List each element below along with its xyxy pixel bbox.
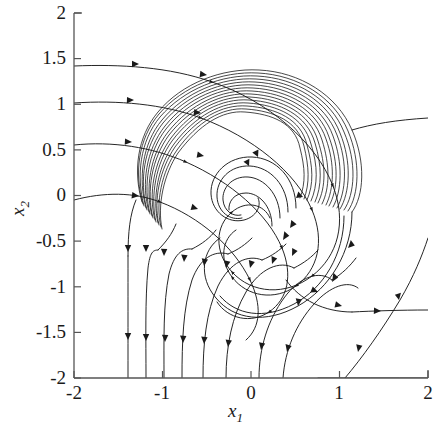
y-tick-label-1: 1 (18, 94, 66, 113)
arrowheads-outer-arms (296, 240, 355, 306)
traj-04 (74, 194, 258, 340)
traj-upper-right-out (352, 118, 428, 130)
x-tick-label-neg2: -2 (48, 383, 100, 402)
arrowheads-fan-lower (125, 333, 292, 352)
traj-02 (74, 102, 319, 295)
x-axis-title-subscript: 1 (236, 410, 243, 425)
x-tick-label-neg1: -1 (136, 383, 188, 402)
y-tick-label-2: 2 (18, 3, 66, 22)
y-tick-label-neg0p5: -0.5 (18, 231, 66, 250)
traj-07 (164, 249, 192, 378)
arrowheads-right (310, 287, 401, 353)
traj-12 (283, 285, 358, 378)
traj-13 (345, 238, 428, 378)
y-axis-title-subscript: 2 (17, 201, 32, 208)
y-axis-title-base: x (7, 208, 28, 216)
trajectory-group (74, 61, 428, 378)
y-tick-label-neg1: -1 (18, 277, 66, 296)
x-tick-label-2: 2 (402, 383, 443, 402)
y-axis-title: x2 (8, 201, 31, 216)
traj-08 (182, 253, 228, 378)
x-axis-ticks (74, 371, 428, 378)
y-tick-label-0p5: 0.5 (18, 140, 66, 159)
inner-spiral (211, 157, 296, 226)
x-axis-title: x1 (228, 401, 243, 424)
plot-canvas (0, 0, 443, 426)
axes (74, 13, 428, 378)
y-axis-ticks (74, 13, 81, 378)
phase-portrait-figure: 2 1.5 1 0.5 0 -0.5 -1 -1.5 -2 -2 -1 0 1 … (0, 0, 443, 426)
x-tick-label-1: 1 (313, 383, 365, 402)
traj-03 (74, 144, 288, 319)
y-tick-label-1p5: 1.5 (18, 48, 66, 67)
traj-01 (74, 65, 340, 289)
y-tick-label-neg1p5: -1.5 (18, 322, 66, 341)
traj-14 (352, 310, 428, 312)
traj-06 (146, 250, 158, 378)
